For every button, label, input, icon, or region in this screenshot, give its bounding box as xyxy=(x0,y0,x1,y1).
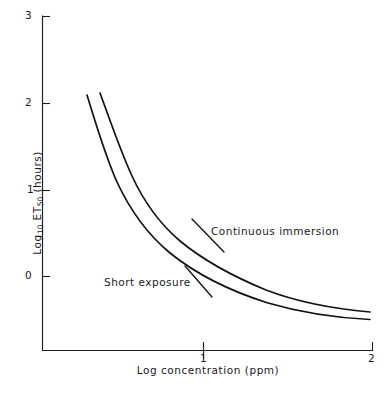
y-axis-title-prefix: Log xyxy=(31,234,43,254)
x-axis-title: Log concentration (ppm) xyxy=(128,364,288,376)
curve-label-continuous-immersion: Continuous immersion xyxy=(211,225,339,237)
y-axis-title-mid: ET xyxy=(31,206,43,224)
chart-plot-area xyxy=(0,0,388,396)
y-axis-title-sub-50: 50 xyxy=(36,196,45,206)
y-axis-title-sub-10: 10 xyxy=(36,224,45,234)
x-tick-label-2: 2 xyxy=(368,352,375,364)
y-tick-label-3: 3 xyxy=(25,9,32,21)
x-tick-label-1: 1 xyxy=(200,352,207,364)
y-axis-title-suffix: (hours) xyxy=(31,151,43,196)
y-axis-title: Log10 ET50 (hours) xyxy=(31,128,45,278)
y-tick-label-2: 2 xyxy=(25,96,32,108)
chart-figure: 3 2 1 0 1 2 Log10 ET50 (hours) Log conce… xyxy=(0,0,388,396)
curve-label-short-exposure: Short exposure xyxy=(104,276,191,288)
